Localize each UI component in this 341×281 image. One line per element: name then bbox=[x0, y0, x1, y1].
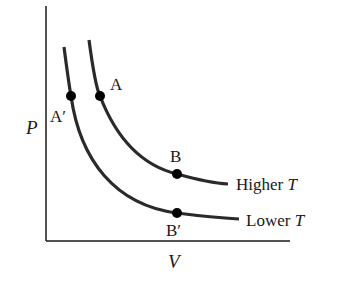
pv-diagram: A B A′ B′ Higher T Lower T P V bbox=[0, 0, 341, 281]
label-lower-t-prefix: Lower bbox=[246, 211, 295, 230]
label-higher-t-var: T bbox=[287, 175, 298, 194]
point-a bbox=[95, 91, 105, 101]
label-lower-t-var: T bbox=[295, 211, 306, 230]
label-a: A bbox=[110, 75, 123, 94]
point-b bbox=[172, 169, 182, 179]
label-higher-t-prefix: Higher bbox=[236, 175, 287, 194]
higher-t-curve bbox=[89, 40, 228, 184]
label-b: B bbox=[170, 147, 181, 166]
label-b-prime: B′ bbox=[166, 221, 181, 240]
y-axis-label: P bbox=[25, 117, 38, 138]
x-axis-label: V bbox=[168, 251, 182, 272]
point-a-prime bbox=[66, 91, 76, 101]
label-a-prime: A′ bbox=[50, 107, 66, 126]
lower-t-curve bbox=[64, 47, 239, 219]
label-higher-t: Higher T bbox=[236, 175, 298, 194]
point-b-prime bbox=[172, 208, 182, 218]
label-lower-t: Lower T bbox=[246, 211, 306, 230]
